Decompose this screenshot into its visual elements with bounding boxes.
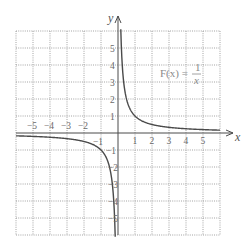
y-tick-label: −2 <box>108 163 118 173</box>
x-tick-label: −4 <box>44 121 54 131</box>
function-label-denominator: x <box>193 74 199 86</box>
x-axis-label: x <box>234 130 241 144</box>
y-tick-label: 4 <box>110 61 115 71</box>
function-label-lhs: F(x) = <box>160 67 188 80</box>
curve-positive-branch <box>121 29 220 130</box>
x-tick-label: −1 <box>93 137 103 147</box>
y-tick-label: −5 <box>108 214 118 224</box>
y-tick-label: 2 <box>110 95 115 105</box>
y-tick-label: −4 <box>108 197 118 207</box>
x-tick-label: −3 <box>61 121 71 131</box>
y-tick-label: 3 <box>110 78 115 88</box>
y-tick-label: −3 <box>108 180 118 190</box>
x-tick-label: 1 <box>133 136 138 146</box>
y-tick-label: 1 <box>110 112 115 122</box>
function-label-numerator: 1 <box>195 61 201 73</box>
x-tick-label: 5 <box>201 136 206 146</box>
reciprocal-function-graph: −5−4−3−2−11234554321−1−2−3−4−5 x y F(x) … <box>0 0 250 250</box>
y-axis-label: y <box>107 11 114 25</box>
x-tick-label: 3 <box>167 136 172 146</box>
x-tick-label: 4 <box>184 136 189 146</box>
x-tick-label: −5 <box>27 121 37 131</box>
y-tick-label: −1 <box>106 146 116 156</box>
x-tick-label: 2 <box>150 136 155 146</box>
y-tick-label: 5 <box>110 44 115 54</box>
curve-negative-branch <box>16 136 115 237</box>
x-tick-label: −2 <box>78 121 88 131</box>
